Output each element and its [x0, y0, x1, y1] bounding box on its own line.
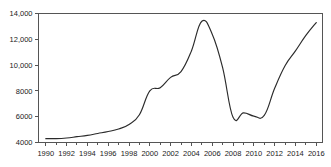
x-tick-label: 2014 — [287, 149, 304, 158]
x-tick-label: 2006 — [204, 149, 221, 158]
y-tick-label: 10,000 — [10, 61, 33, 70]
x-tick-label: 2004 — [183, 149, 200, 158]
x-tick-label: 2016 — [308, 149, 325, 158]
chart-series — [46, 20, 316, 138]
plot-frame — [39, 14, 323, 143]
y-tick-label: 12,000 — [10, 35, 33, 44]
y-axis-tick-labels: 40006000800010,00012,00014,000 — [10, 9, 33, 147]
x-tick-label: 2000 — [141, 149, 158, 158]
x-tick-label: 1998 — [121, 149, 138, 158]
chart-axes — [39, 14, 323, 143]
y-tick-label: 8000 — [16, 87, 33, 96]
x-axis-ticks — [46, 143, 316, 147]
x-tick-label: 2008 — [225, 149, 242, 158]
chart-canvas: 40006000800010,00012,00014,000 199019921… — [0, 0, 331, 167]
line-chart: 40006000800010,00012,00014,000 199019921… — [0, 0, 331, 167]
y-tick-label: 14,000 — [10, 9, 33, 18]
y-axis-ticks — [35, 14, 39, 143]
x-tick-label: 1990 — [37, 149, 54, 158]
x-tick-label: 1992 — [58, 149, 75, 158]
x-axis-tick-labels: 1990199219941996199820002002200420062008… — [37, 149, 324, 158]
y-tick-label: 4000 — [16, 138, 33, 147]
x-tick-label: 2002 — [162, 149, 179, 158]
x-tick-label: 1994 — [79, 149, 96, 158]
x-tick-label: 2012 — [266, 149, 283, 158]
x-tick-label: 1996 — [100, 149, 117, 158]
x-tick-label: 2010 — [245, 149, 262, 158]
series-line — [46, 20, 316, 138]
y-tick-label: 6000 — [16, 112, 33, 121]
